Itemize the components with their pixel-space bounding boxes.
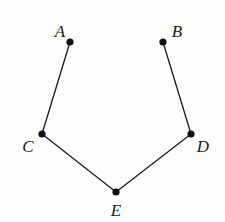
segment-db: [163, 42, 191, 134]
point-a: [66, 38, 73, 45]
label-c: C: [22, 137, 34, 156]
segments: [42, 42, 191, 192]
label-d: D: [196, 137, 210, 156]
label-a: A: [54, 22, 66, 41]
segment-ed: [116, 134, 191, 192]
point-e: [112, 188, 119, 195]
points: [38, 38, 194, 195]
segment-ce: [42, 134, 116, 192]
label-e: E: [110, 201, 122, 220]
segment-ac: [42, 42, 70, 134]
point-c: [38, 130, 45, 137]
point-d: [187, 130, 194, 137]
point-b: [159, 38, 166, 45]
label-b: B: [172, 22, 183, 41]
geometry-diagram: ABCDE: [0, 0, 225, 222]
